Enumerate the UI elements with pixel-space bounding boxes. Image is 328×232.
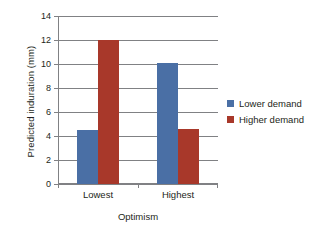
bar xyxy=(77,130,98,184)
gridline xyxy=(58,40,218,41)
legend-item-label: Lower demand xyxy=(239,98,302,109)
y-axis-tick-label: 12 xyxy=(41,35,51,45)
y-axis-tick xyxy=(54,64,58,65)
legend-item[interactable]: Higher demand xyxy=(227,111,304,127)
y-axis-tick-label: 10 xyxy=(41,59,51,69)
x-axis-tick xyxy=(217,184,218,188)
y-axis-tick xyxy=(54,88,58,89)
x-axis-tick xyxy=(138,184,139,188)
gridline xyxy=(58,88,218,89)
legend-item[interactable]: Lower demand xyxy=(227,95,304,111)
legend-swatch-icon xyxy=(227,116,234,123)
y-axis-tick-label: 14 xyxy=(41,11,51,21)
chart-legend: Lower demandHigher demand xyxy=(227,95,304,127)
x-axis-category-label: Highest xyxy=(162,189,194,200)
y-axis-title: Predicted induration (mm) xyxy=(25,12,36,192)
y-axis-tick-label: 2 xyxy=(46,155,51,165)
gridline xyxy=(58,64,218,65)
y-axis-tick-label: 4 xyxy=(46,131,51,141)
y-axis-tick xyxy=(54,112,58,113)
bar xyxy=(98,40,119,184)
y-axis-line xyxy=(58,16,59,184)
y-axis-tick xyxy=(54,40,58,41)
y-axis-tick-label: 8 xyxy=(46,83,51,93)
y-axis-tick-label: 0 xyxy=(46,179,51,189)
legend-swatch-icon xyxy=(227,100,234,107)
bar-chart-figure: Predicted induration (mm) 02468101214 Lo… xyxy=(0,0,328,232)
x-axis-category-label: Lowest xyxy=(83,189,113,200)
bar xyxy=(157,63,178,184)
y-axis-tick xyxy=(54,136,58,137)
plot-area: 02468101214 xyxy=(58,16,218,184)
gridline xyxy=(58,112,218,113)
y-axis-tick xyxy=(54,16,58,17)
gridline xyxy=(58,16,218,17)
y-axis-tick-label: 6 xyxy=(46,107,51,117)
legend-item-label: Higher demand xyxy=(239,114,304,125)
plot-frame: 02468101214 xyxy=(58,16,218,184)
y-axis-tick xyxy=(54,160,58,161)
bar xyxy=(178,129,199,184)
x-axis-tick xyxy=(58,184,59,188)
x-axis-title: Optimism xyxy=(58,211,218,222)
